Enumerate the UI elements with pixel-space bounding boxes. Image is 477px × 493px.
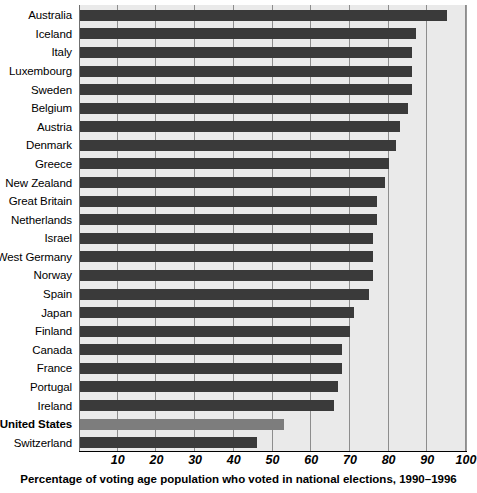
bar: [79, 437, 257, 448]
value-axis-line: [79, 451, 467, 452]
bar: [79, 158, 389, 169]
plot-area: [79, 5, 467, 451]
category-label: Italy: [51, 43, 72, 61]
category-label: Spain: [43, 285, 72, 303]
category-label: West Germany: [0, 248, 72, 266]
tick-label-10: 10: [111, 453, 125, 467]
bar: [79, 140, 396, 151]
bar: [79, 66, 412, 77]
category-label: Portugal: [30, 378, 72, 396]
gridline-100: [465, 5, 466, 451]
bar-chart: AustraliaIcelandItalyLuxembourgSwedenBel…: [0, 0, 477, 493]
category-label: Finland: [35, 322, 72, 340]
tick-label-40: 40: [227, 453, 241, 467]
bar: [79, 326, 350, 337]
tick-label-20: 20: [149, 453, 163, 467]
tick-label-100: 100: [456, 453, 477, 467]
chart-caption: Percentage of voting age population who …: [0, 473, 477, 485]
tick-label-90: 90: [420, 453, 434, 467]
category-label: Sweden: [31, 81, 72, 99]
category-label: Austria: [37, 118, 72, 136]
value-axis-tick-labels: 102030405060708090100: [0, 453, 477, 471]
bar: [79, 28, 416, 39]
bar: [79, 344, 342, 355]
category-axis-labels: AustraliaIcelandItalyLuxembourgSwedenBel…: [0, 5, 76, 451]
bar: [79, 251, 373, 262]
gridline-90: [426, 5, 427, 451]
value-axis-origin-line: [79, 5, 80, 452]
category-label: Switzerland: [14, 434, 72, 452]
bar: [79, 177, 385, 188]
category-label: United States: [0, 415, 72, 433]
bar: [79, 84, 412, 95]
category-label: Israel: [44, 229, 72, 247]
bar: [79, 233, 373, 244]
bar: [79, 270, 373, 281]
bar: [79, 289, 369, 300]
bar: [79, 363, 342, 374]
plot-inner: [79, 5, 466, 451]
category-label: Luxembourg: [9, 62, 72, 80]
category-label: New Zealand: [5, 174, 72, 192]
category-label: Great Britain: [9, 192, 72, 210]
bar: [79, 400, 334, 411]
category-label: France: [37, 359, 72, 377]
category-label: Ireland: [38, 397, 72, 415]
bar: [79, 307, 354, 318]
category-label: Netherlands: [11, 211, 72, 229]
bar: [79, 214, 377, 225]
tick-label-30: 30: [188, 453, 202, 467]
category-label: Japan: [41, 304, 72, 322]
category-label: Canada: [32, 341, 72, 359]
category-label: Belgium: [31, 99, 72, 117]
bar: [79, 419, 284, 430]
bar: [79, 121, 400, 132]
category-label: Australia: [28, 6, 72, 24]
tick-label-70: 70: [343, 453, 357, 467]
bar: [79, 103, 408, 114]
bar: [79, 10, 447, 21]
category-label: Norway: [34, 266, 72, 284]
category-label: Denmark: [26, 136, 72, 154]
bar: [79, 196, 377, 207]
bar: [79, 381, 338, 392]
category-label: Greece: [35, 155, 72, 173]
tick-label-60: 60: [304, 453, 318, 467]
category-label: Iceland: [36, 25, 72, 43]
bar: [79, 47, 412, 58]
tick-label-50: 50: [266, 453, 280, 467]
tick-label-80: 80: [382, 453, 396, 467]
